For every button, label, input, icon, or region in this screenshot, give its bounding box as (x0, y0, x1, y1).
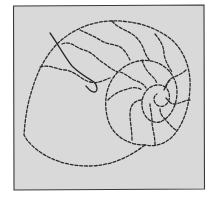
panel-frame (14, 5, 205, 190)
nautilus-drawing (0, 0, 215, 206)
